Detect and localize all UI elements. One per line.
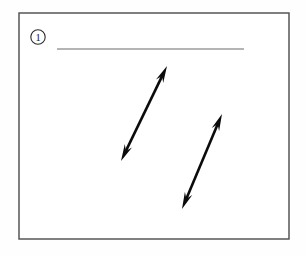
- item-number-label: 1: [35, 32, 40, 43]
- worksheet-frame: [19, 13, 289, 239]
- worksheet-figure: 1: [0, 0, 305, 255]
- worksheet-canvas: 1: [0, 0, 305, 255]
